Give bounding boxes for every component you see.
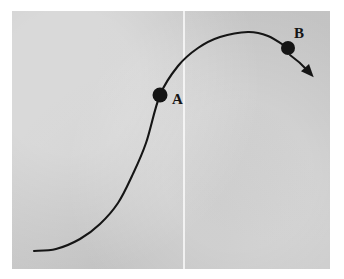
curve-layer (0, 0, 344, 279)
figure-canvas: A B (0, 0, 344, 279)
marker-dot-a (153, 88, 168, 103)
main-curve-path (34, 32, 288, 251)
point-b-label: B (294, 26, 304, 41)
marker-dot-b (281, 41, 295, 55)
point-a-label: A (172, 92, 183, 107)
